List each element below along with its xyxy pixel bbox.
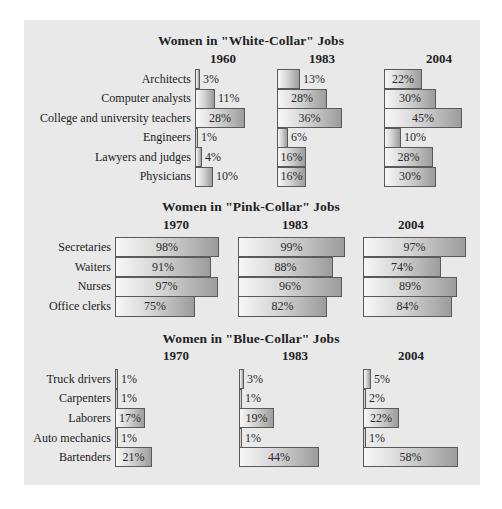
value-label: 99% bbox=[238, 241, 345, 253]
category-label: Office clerks bbox=[49, 300, 111, 312]
category-label: Secretaries bbox=[58, 241, 111, 253]
value-label: 21% bbox=[115, 451, 152, 463]
value-label: 30% bbox=[384, 92, 436, 104]
value-label: 96% bbox=[238, 280, 342, 292]
bar bbox=[277, 128, 288, 148]
value-label: 82% bbox=[238, 300, 327, 312]
bar bbox=[239, 428, 242, 448]
value-label: 6% bbox=[291, 131, 307, 143]
bar bbox=[195, 69, 200, 89]
year-header: 1970 bbox=[146, 217, 206, 233]
bar bbox=[363, 389, 366, 409]
value-label: 88% bbox=[238, 261, 333, 273]
year-header: 1983 bbox=[265, 217, 325, 233]
bar bbox=[195, 167, 213, 187]
value-label: 44% bbox=[239, 451, 319, 463]
value-label: 98% bbox=[115, 241, 219, 253]
value-label: 84% bbox=[363, 300, 452, 312]
value-label: 58% bbox=[363, 451, 458, 463]
category-label: Bartenders bbox=[59, 451, 111, 463]
value-label: 16% bbox=[277, 151, 306, 163]
category-label: College and university teachers bbox=[40, 112, 191, 124]
value-label: 28% bbox=[384, 151, 433, 163]
value-label: 1% bbox=[121, 432, 137, 444]
bar bbox=[384, 128, 401, 148]
bar bbox=[363, 369, 371, 389]
value-label: 1% bbox=[245, 392, 261, 404]
value-label: 74% bbox=[363, 261, 441, 273]
bar bbox=[239, 369, 244, 389]
category-label: Engineers bbox=[143, 131, 191, 143]
value-label: 91% bbox=[115, 261, 211, 273]
value-label: 22% bbox=[363, 412, 399, 424]
value-label: 1% bbox=[369, 432, 385, 444]
value-label: 3% bbox=[247, 373, 263, 385]
bar bbox=[115, 428, 118, 448]
category-label: Carpenters bbox=[59, 392, 111, 404]
value-label: 2% bbox=[369, 392, 385, 404]
bar bbox=[195, 89, 215, 109]
value-label: 28% bbox=[277, 92, 327, 104]
bar bbox=[115, 369, 118, 389]
category-label: Nurses bbox=[78, 280, 111, 292]
year-header: 1983 bbox=[265, 348, 325, 364]
year-header: 2004 bbox=[381, 217, 441, 233]
white-collar-chart-title: Women in "White-Collar" Jobs bbox=[0, 33, 502, 49]
value-label: 97% bbox=[115, 280, 218, 292]
value-label: 19% bbox=[239, 412, 274, 424]
value-label: 17% bbox=[115, 412, 145, 424]
category-label: Truck drivers bbox=[46, 373, 111, 385]
category-label: Computer analysts bbox=[101, 92, 191, 104]
value-label: 30% bbox=[384, 170, 436, 182]
value-label: 36% bbox=[277, 112, 342, 124]
value-label: 10% bbox=[216, 170, 238, 182]
bar bbox=[363, 428, 366, 448]
category-label: Architects bbox=[142, 73, 191, 85]
value-label: 1% bbox=[121, 392, 137, 404]
pink-collar-chart-title: Women in "Pink-Collar" Jobs bbox=[0, 199, 502, 215]
value-label: 11% bbox=[218, 92, 240, 104]
value-label: 5% bbox=[374, 373, 390, 385]
value-label: 75% bbox=[115, 300, 195, 312]
value-label: 1% bbox=[121, 373, 137, 385]
year-header: 2004 bbox=[409, 51, 469, 67]
bar bbox=[239, 389, 242, 409]
value-label: 1% bbox=[245, 432, 261, 444]
year-header: 1960 bbox=[193, 51, 253, 67]
bar bbox=[115, 389, 118, 409]
value-label: 4% bbox=[205, 151, 221, 163]
category-label: Auto mechanics bbox=[33, 432, 111, 444]
year-header: 2004 bbox=[381, 348, 441, 364]
value-label: 22% bbox=[384, 73, 422, 85]
value-label: 89% bbox=[363, 280, 457, 292]
value-label: 10% bbox=[404, 131, 426, 143]
blue-collar-chart-title: Women in "Blue-Collar" Jobs bbox=[0, 331, 502, 347]
value-label: 13% bbox=[303, 73, 325, 85]
category-label: Physicians bbox=[140, 170, 191, 182]
value-label: 3% bbox=[203, 73, 219, 85]
bar bbox=[277, 69, 300, 89]
year-header: 1983 bbox=[292, 51, 352, 67]
category-label: Laborers bbox=[68, 412, 111, 424]
value-label: 97% bbox=[363, 241, 466, 253]
category-label: Waiters bbox=[75, 261, 111, 273]
value-label: 28% bbox=[195, 112, 245, 124]
year-header: 1970 bbox=[146, 348, 206, 364]
bar bbox=[195, 147, 202, 167]
value-label: 16% bbox=[277, 170, 306, 182]
value-label: 1% bbox=[201, 131, 217, 143]
value-label: 45% bbox=[384, 112, 462, 124]
category-label: Lawyers and judges bbox=[95, 151, 191, 163]
bar bbox=[195, 128, 198, 148]
